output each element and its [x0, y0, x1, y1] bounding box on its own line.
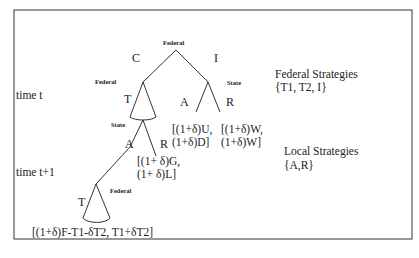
payoff-CTR-line2: (1+ δ)L]	[137, 168, 176, 181]
edge-label-T-bottom: T	[78, 195, 86, 209]
edge-label-C: C	[132, 51, 140, 65]
legend-local-set: {A,R}	[284, 159, 314, 172]
legend-federal-title: Federal Strategies	[275, 68, 358, 81]
payoff-IR-line2: (1+δ)W]	[221, 136, 261, 149]
time-label-t1: time t+1	[16, 166, 55, 178]
game-tree-diagram: Federal C I Federal T State A R State A …	[0, 0, 419, 258]
node-label-left-state: State	[111, 121, 125, 128]
payoff-IA-line1: [(1+δ)U,	[172, 123, 212, 136]
legend-federal-set: {T1, T2, I}	[275, 81, 327, 94]
time-label-t: time t	[16, 89, 43, 101]
node-label-bottom-federal: Federal	[110, 187, 131, 194]
payoff-IR-line1: [(1+δ)W,	[221, 123, 263, 136]
edge-label-A-left: A	[125, 137, 134, 151]
node-label-root-federal: Federal	[163, 39, 184, 46]
diagram-frame	[14, 10, 412, 239]
node-label-left-federal: Federal	[95, 78, 116, 85]
edge-label-R-right: R	[226, 95, 234, 109]
node-label-right-state: State	[227, 79, 241, 86]
edge-label-R-left: R	[160, 137, 168, 151]
edge-label-I: I	[214, 51, 218, 65]
payoff-IA-line2: (1+δ)D]	[172, 136, 209, 149]
legend-local-title: Local Strategies	[284, 145, 359, 158]
payoff-CTAT: [(1+δ)F-T1-δT2, T1+δT2]	[32, 226, 153, 239]
edge-label-A-right: A	[180, 95, 189, 109]
payoff-CTR-line1: [(1+ δ)G,	[137, 155, 180, 168]
edge-label-T: T	[124, 92, 132, 106]
